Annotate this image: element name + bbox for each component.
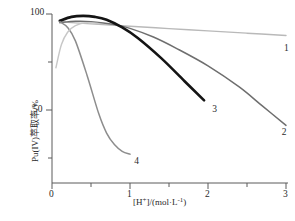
y-tick-label-100: 100 (30, 8, 44, 18)
curve-4 (60, 22, 130, 154)
x-axis-title-pre: [H (133, 197, 143, 207)
x-tick-label-1: 1 (127, 190, 132, 200)
curve-label-3: 3 (212, 105, 217, 115)
x-axis-title-mid: ]/(mol·L (146, 197, 177, 207)
x-axis-minor-ticks (91, 183, 247, 187)
x-tick-label-0: 0 (49, 190, 54, 200)
curve-2 (60, 21, 286, 125)
data-curves (56, 16, 286, 154)
curve-label-2: 2 (282, 128, 287, 138)
y-axis-title-wrap: Pu(IV)萃取率/% (20, 46, 34, 166)
curve-label-1: 1 (284, 44, 289, 54)
curve-1 (60, 22, 286, 36)
x-axis-title-post: ) (183, 197, 186, 207)
x-tick-label-2: 2 (205, 190, 210, 200)
x-axis-title: [H+]/(mol·L-1) (133, 197, 186, 207)
plot-area (0, 0, 295, 221)
curve-label-4: 4 (134, 157, 139, 167)
x-tick-label-3: 3 (283, 190, 288, 200)
chart-container: 100 50 0 1 2 3 Pu(IV)萃取率/% [H+]/(mol·L-1… (0, 0, 295, 221)
y-axis-title: Pu(IV)萃取率/% (31, 100, 40, 162)
